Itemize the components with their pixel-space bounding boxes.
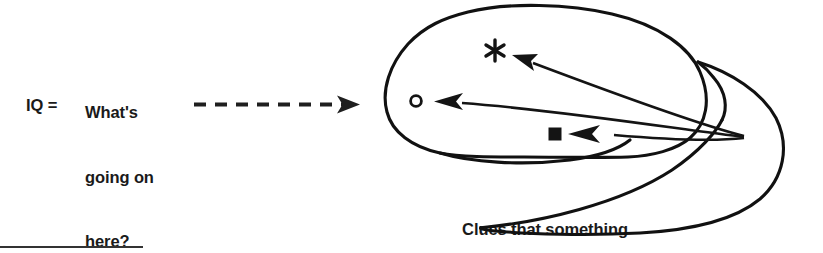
clue-arrow-to-square-head [568, 125, 600, 143]
circle-clue-marker [411, 96, 422, 107]
dashed-arrow-head [337, 96, 360, 114]
blob-crossing-sweep [483, 120, 722, 228]
diagram-vector-layer [0, 0, 823, 253]
asterisk-clue-marker [486, 40, 504, 61]
blob-upper-lobe [385, 5, 706, 157]
clue-arrow-to-circle-head [434, 93, 463, 110]
square-clue-marker [549, 128, 562, 141]
figure-root: IQ = What's going on here? Clues that so… [0, 0, 823, 253]
dashed-implication-arrow [194, 96, 360, 114]
blob-lower-inner-edge [440, 140, 630, 163]
blob-lower-lobe [481, 62, 784, 234]
situation-blob [385, 5, 783, 234]
